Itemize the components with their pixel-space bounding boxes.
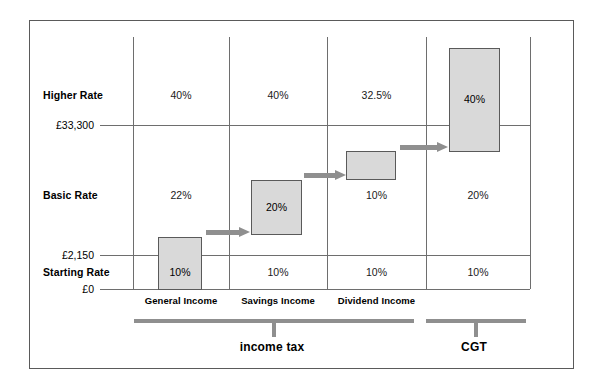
highlight-box-dividend-basic [346, 151, 396, 180]
band-label-basic-rate: Basic Rate [43, 189, 98, 201]
column-label-general-income: General Income [133, 295, 229, 306]
rate-starting-cgt: 10% [426, 266, 530, 278]
column-label-dividend-income: Dividend Income [327, 295, 426, 306]
rate-starting-dividend: 10% [327, 266, 426, 278]
column-divider-5 [530, 37, 531, 289]
bracket-tick-income-tax [272, 319, 276, 337]
chart-frame: £33,300 £2,150 £0 Higher Rate Basic Rate… [29, 20, 574, 369]
column-divider-2 [229, 37, 230, 289]
rate-higher-dividend: 32.5% [327, 89, 426, 101]
rate-higher-general: 40% [133, 89, 229, 101]
bracket-tick-cgt [474, 319, 478, 337]
axis-tick-2150: £2,150 [30, 249, 94, 261]
rate-basic-cgt: 20% [426, 189, 530, 201]
bracket-label-income-tax: income tax [204, 340, 340, 354]
column-divider-1 [133, 37, 134, 289]
axis-tick-0: £0 [30, 283, 94, 295]
arrow-savings-to-dividend [304, 172, 346, 179]
rate-higher-savings: 40% [229, 89, 327, 101]
rate-basic-dividend: 10% [327, 189, 426, 201]
axis-tick-33300: £33,300 [30, 119, 94, 131]
highlight-box-cgt-higher: 40% [449, 48, 500, 152]
rate-basic-general: 22% [133, 189, 229, 201]
band-label-higher-rate: Higher Rate [43, 89, 103, 101]
highlight-label-general-starting: 10% [159, 266, 201, 278]
column-label-savings-income: Savings Income [229, 295, 327, 306]
bracket-label-cgt: CGT [440, 340, 508, 354]
rate-starting-savings: 10% [229, 266, 327, 278]
highlight-label-savings-basic: 20% [252, 201, 301, 213]
highlight-box-savings-basic: 20% [251, 180, 302, 235]
column-divider-3 [327, 37, 328, 289]
highlight-label-cgt-higher: 40% [450, 93, 499, 105]
arrow-general-to-savings [206, 229, 250, 236]
band-label-starting-rate: Starting Rate [43, 266, 110, 278]
tax-rate-bands-chart: £33,300 £2,150 £0 Higher Rate Basic Rate… [0, 0, 603, 390]
column-divider-4 [426, 37, 427, 289]
highlight-box-general-starting: 10% [158, 237, 202, 290]
arrow-dividend-to-cgt [400, 144, 448, 151]
